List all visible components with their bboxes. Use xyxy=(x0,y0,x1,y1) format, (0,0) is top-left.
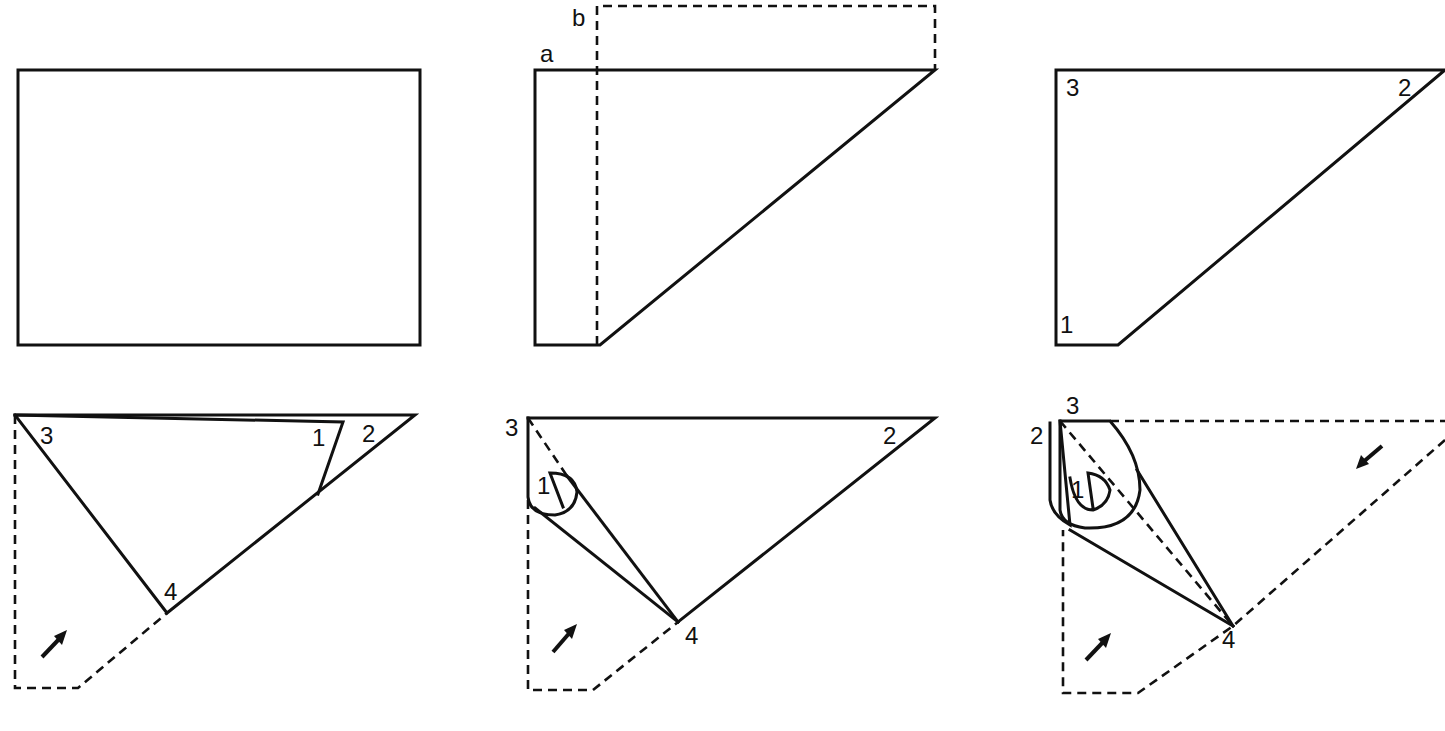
arrow-up-right-icon xyxy=(1086,633,1111,660)
arrow-down-left-icon xyxy=(1356,446,1382,469)
cone-edge-left xyxy=(1070,530,1233,626)
top-and-right-edge xyxy=(528,418,935,622)
label-1: 1 xyxy=(1071,476,1084,503)
label-3: 3 xyxy=(1066,392,1079,419)
cone-edge-left xyxy=(535,508,678,622)
label-1: 1 xyxy=(537,472,550,499)
label-4: 4 xyxy=(164,578,177,605)
fold-line-dashed xyxy=(1060,421,1233,626)
label-2: 2 xyxy=(883,422,896,449)
original-outline-dashed xyxy=(15,415,167,688)
triangle-shape xyxy=(15,415,415,613)
panel-2-diagonal-fold: a b xyxy=(535,4,935,345)
trapezoid-shape xyxy=(1056,70,1445,345)
folded-shape xyxy=(535,70,935,345)
arrow-up-right-icon xyxy=(553,624,577,652)
label-4: 4 xyxy=(685,622,698,649)
rolled-corner-1 xyxy=(528,418,577,515)
original-outline-dashed xyxy=(1063,440,1445,693)
figure-caption xyxy=(0,716,1445,731)
paper-rectangle xyxy=(18,70,420,345)
panel-4-first-roll: 3 1 2 4 xyxy=(15,415,415,688)
flap-1 xyxy=(15,415,343,494)
panel-3-trapezoid: 3 2 1 xyxy=(1056,70,1445,345)
label-a: a xyxy=(540,40,554,67)
panel-6-final-cone: 3 2 1 4 xyxy=(1030,392,1445,693)
label-4: 4 xyxy=(1222,626,1235,653)
label-1: 1 xyxy=(1060,311,1073,338)
label-2: 2 xyxy=(1030,422,1043,449)
label-2: 2 xyxy=(1398,74,1411,101)
label-3: 3 xyxy=(1066,74,1079,101)
label-2: 2 xyxy=(362,420,375,447)
label-3: 3 xyxy=(505,414,518,441)
cone-edge-right xyxy=(1137,470,1233,626)
cone-edge-right xyxy=(567,476,678,622)
arrow-up-right-icon xyxy=(42,630,67,657)
panel-1-rectangle xyxy=(18,70,420,345)
fold-line-dashed xyxy=(528,418,567,476)
folding-diagram: a b 3 2 1 3 1 2 4 3 2 1 4 xyxy=(0,0,1445,731)
panel-5-second-roll: 3 2 1 4 xyxy=(505,414,935,690)
fold-outline-dashed xyxy=(597,6,935,345)
label-3: 3 xyxy=(40,422,53,449)
label-b: b xyxy=(572,4,585,31)
original-outline-dashed xyxy=(528,500,678,690)
label-1: 1 xyxy=(312,424,325,451)
